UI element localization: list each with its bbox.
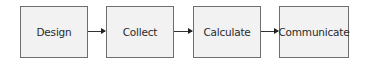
arrow-right-icon (261, 31, 278, 32)
step-label: Design (36, 26, 71, 38)
step-calculate-box: Calculate (193, 6, 261, 58)
step-label: Communicate (278, 26, 349, 38)
step-label: Collect (123, 26, 158, 38)
step-design-box: Design (20, 6, 88, 58)
step-communicate-box: Communicate (279, 6, 349, 58)
step-collect-box: Collect (106, 6, 174, 58)
step-label: Calculate (203, 26, 250, 38)
arrow-right-icon (174, 31, 192, 32)
arrow-right-icon (88, 31, 105, 32)
